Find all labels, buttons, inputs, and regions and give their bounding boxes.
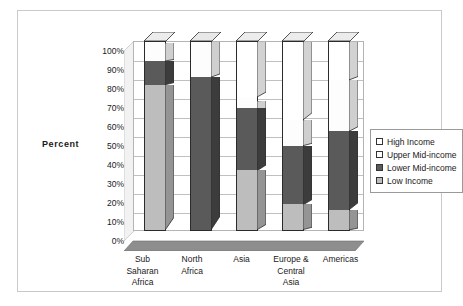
bar-group[interactable] — [190, 41, 212, 231]
legend-item[interactable]: High Income — [376, 135, 456, 148]
legend-label: Lower Mid-income — [387, 163, 456, 173]
y-axis-tick: 100% — [102, 46, 124, 56]
bar-segment[interactable] — [236, 97, 258, 107]
legend-label: Low Income — [387, 176, 433, 186]
bar-top-face — [236, 32, 267, 41]
y-axis-tick: 0% — [112, 236, 124, 246]
x-axis-label: Asia — [217, 254, 266, 266]
y-axis-tick: 20% — [107, 198, 124, 208]
bar-group[interactable] — [282, 41, 304, 231]
bar-segment-side-face — [165, 61, 174, 85]
y-axis-tick: 50% — [107, 141, 124, 151]
legend-swatch-icon — [376, 177, 383, 184]
bar-segment-side-face — [211, 77, 220, 230]
legend-item[interactable]: Low Income — [376, 174, 456, 187]
y-axis-tick: 80% — [107, 84, 124, 94]
y-axis: 0%10%20%30%40%50%60%70%80%90%100% — [90, 41, 124, 249]
bar-top-face — [144, 32, 175, 41]
y-axis-tick: 10% — [107, 217, 124, 227]
bar-top-face — [190, 32, 221, 41]
bar-segment-side-face — [303, 146, 312, 205]
bar-segment[interactable] — [282, 41, 304, 120]
bar-segment-side-face — [303, 204, 312, 230]
bar-segment[interactable] — [328, 41, 350, 80]
bar-segment[interactable] — [144, 61, 166, 85]
bar-segment-side-face — [257, 108, 266, 171]
bar-group[interactable] — [144, 41, 166, 231]
legend-swatch-icon — [376, 151, 383, 158]
plot-area — [124, 41, 364, 251]
bar-segment[interactable] — [190, 41, 212, 77]
bar-segment[interactable] — [282, 146, 304, 205]
bar-segment[interactable] — [236, 108, 258, 171]
bar-segment-side-face — [349, 210, 358, 230]
bar-segment-side-face — [303, 120, 312, 146]
bar-segment[interactable] — [236, 170, 258, 231]
legend-item[interactable]: Upper Mid-income — [376, 148, 456, 161]
y-axis-tick: 40% — [107, 160, 124, 170]
x-axis-label: Europe & Central Asia — [267, 254, 316, 289]
x-axis-labels: Sub Saharan AfricaNorth AfricaAsiaEurope… — [118, 254, 368, 304]
bar-segment[interactable] — [328, 80, 350, 131]
legend-item[interactable]: Lower Mid-income — [376, 161, 456, 174]
bar-segment-side-face — [257, 42, 266, 97]
bar-segment-side-face — [165, 85, 174, 230]
bar-top-face — [282, 32, 313, 41]
bar-segment[interactable] — [328, 210, 350, 231]
bar-segment-side-face — [349, 42, 358, 80]
bar-segment-side-face — [257, 170, 266, 230]
bar-segment-side-face — [349, 80, 358, 131]
bar-group[interactable] — [328, 41, 350, 231]
bar-group[interactable] — [236, 41, 258, 231]
bar-top-face — [328, 32, 359, 41]
chart-floor — [124, 231, 364, 251]
bar-segment[interactable] — [282, 120, 304, 146]
y-axis-tick: 70% — [107, 103, 124, 113]
y-axis-tick: 60% — [107, 122, 124, 132]
chart-legend: High IncomeUpper Mid-incomeLower Mid-inc… — [370, 129, 463, 193]
bar-segment-side-face — [349, 131, 358, 210]
x-axis-label: North Africa — [168, 254, 217, 277]
legend-label: Upper Mid-income — [387, 150, 456, 160]
bar-segment[interactable] — [144, 85, 166, 231]
y-axis-tick: 30% — [107, 179, 124, 189]
legend-label: High Income — [387, 137, 435, 147]
bar-segment[interactable] — [144, 43, 166, 61]
bar-segment-side-face — [257, 97, 266, 107]
y-axis-tick: 90% — [107, 65, 124, 75]
legend-swatch-icon — [376, 138, 383, 145]
bar-segment-side-face — [303, 42, 312, 120]
y-axis-title: Percent — [42, 139, 79, 149]
legend-swatch-icon — [376, 164, 383, 171]
chart-frame: Percent 0%10%20%30%40%50%60%70%80%90%100… — [17, 10, 442, 292]
bar-segment[interactable] — [282, 204, 304, 231]
bar-segment[interactable] — [328, 131, 350, 210]
bar-segment[interactable] — [236, 41, 258, 97]
x-axis-label: Sub Saharan Africa — [118, 254, 167, 289]
bar-segment-side-face — [165, 43, 174, 61]
bar-segment[interactable] — [190, 77, 212, 231]
x-axis-label: Americas — [316, 254, 365, 266]
bar-segment-side-face — [211, 42, 220, 77]
